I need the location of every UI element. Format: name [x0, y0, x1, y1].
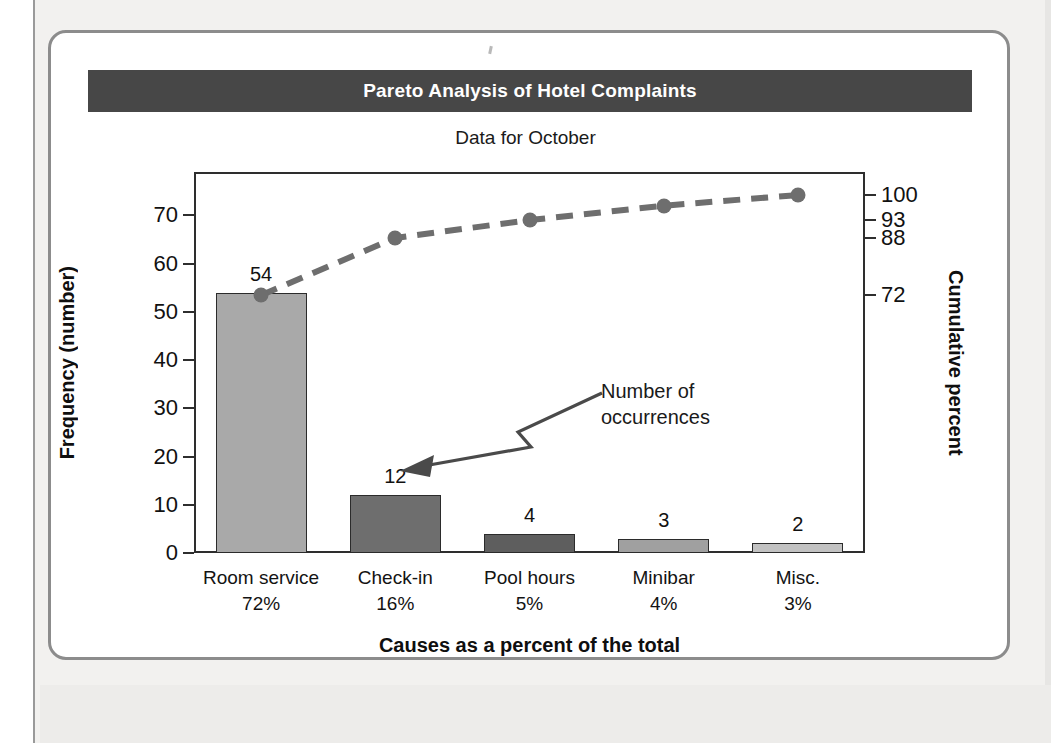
cumulative-marker [388, 230, 403, 245]
x-axis-category-label: Minibar4% [633, 565, 695, 616]
y-axis-left-tick-label: 10 [154, 492, 178, 518]
category-percent: 4% [633, 591, 695, 617]
category-name: Room service [203, 565, 319, 591]
chart-subtitle: Data for October [0, 127, 1051, 149]
y-axis-right-tick [865, 294, 876, 296]
plot-area: 010203040506070 728893100 5412432 Room s… [194, 172, 865, 553]
y-axis-right-title-text: Cumulative percent [944, 270, 967, 456]
y-axis-left-tick-label: 60 [154, 251, 178, 277]
x-axis-category-label: Pool hours5% [484, 565, 575, 616]
cumulative-marker [790, 188, 805, 203]
y-axis-left-tick [183, 407, 194, 409]
y-axis-left-tick-label: 20 [154, 444, 178, 470]
cumulative-line-path [261, 195, 798, 295]
cumulative-marker [522, 213, 537, 228]
y-axis-left-tick [183, 311, 194, 313]
x-axis-category-label: Check-in16% [358, 565, 433, 616]
y-axis-left-tick [183, 263, 194, 265]
y-axis-right-tick-label: 93 [881, 207, 905, 233]
y-axis-left-tick-label: 40 [154, 347, 178, 373]
y-axis-left-tick [183, 504, 194, 506]
category-percent: 72% [203, 591, 319, 617]
category-percent: 5% [484, 591, 575, 617]
y-axis-left-tick [183, 456, 194, 458]
cumulative-marker [656, 198, 671, 213]
page-right-edge [1045, 0, 1051, 743]
y-axis-right-tick [865, 194, 876, 196]
cumulative-line [194, 172, 865, 553]
y-axis-right-tick-label: 100 [881, 182, 918, 208]
category-name: Minibar [633, 565, 695, 591]
x-axis-category-label: Misc.3% [776, 565, 820, 616]
y-axis-left-tick [183, 214, 194, 216]
category-percent: 16% [358, 591, 433, 617]
category-name: Misc. [776, 565, 820, 591]
y-axis-right-tick [865, 237, 876, 239]
y-axis-right-title: Cumulative percent [944, 172, 967, 553]
y-axis-left-tick-label: 70 [154, 202, 178, 228]
x-axis-category-label: Room service72% [203, 565, 319, 616]
y-axis-left-title-text: Frequency (number) [56, 266, 79, 459]
annotation-arrow-icon [390, 385, 620, 495]
y-axis-left-tick [183, 552, 194, 554]
category-name: Check-in [358, 565, 433, 591]
page-bottom-band [40, 685, 1051, 743]
y-axis-right-tick [865, 219, 876, 221]
category-name: Pool hours [484, 565, 575, 591]
y-axis-left-tick-label: 50 [154, 299, 178, 325]
x-axis-title: Causes as a percent of the total [194, 634, 865, 657]
chart-title-banner: Pareto Analysis of Hotel Complaints [88, 70, 972, 112]
page-left-margin [0, 0, 33, 743]
y-axis-right-tick-label: 72 [881, 282, 905, 308]
y-axis-left-tick [183, 359, 194, 361]
cumulative-marker [254, 288, 269, 303]
y-axis-left-tick-label: 30 [154, 395, 178, 421]
category-percent: 3% [776, 591, 820, 617]
y-axis-left-title: Frequency (number) [56, 172, 79, 553]
chart-title: Pareto Analysis of Hotel Complaints [363, 80, 697, 102]
page-edge-line [33, 0, 35, 743]
y-axis-left-tick-label: 0 [166, 540, 178, 566]
